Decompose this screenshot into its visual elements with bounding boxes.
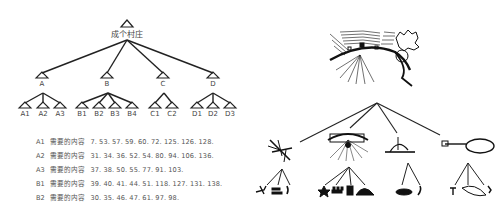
leaf-label: D3 bbox=[225, 110, 235, 118]
leaf-label: A2 bbox=[38, 110, 47, 118]
node-label-c: C bbox=[161, 80, 166, 88]
node-label-d: D bbox=[210, 80, 215, 88]
node-label-a: A bbox=[40, 80, 45, 88]
row-id: B1 bbox=[36, 180, 45, 188]
row-id: A1 bbox=[36, 138, 45, 146]
settlement-sketch bbox=[328, 134, 368, 161]
bottom-glyphs-1 bbox=[256, 186, 288, 194]
content-row: A2需要的内容31. 34. 36. 52. 54. 80. 94. 106. … bbox=[36, 150, 219, 160]
leaf-label: A3 bbox=[55, 110, 64, 118]
root-node-label: 成个村庄 bbox=[111, 28, 143, 39]
leaf-label: B2 bbox=[94, 110, 103, 118]
leaf-label: D2 bbox=[208, 110, 218, 118]
leaf-label: B1 bbox=[77, 110, 86, 118]
row-values: 7. 53. 57. 59. 60. 72. 125. 126. 128. bbox=[90, 138, 213, 146]
row-label: 需要的内容 bbox=[50, 152, 86, 160]
bottom-glyphs-2 bbox=[318, 186, 374, 197]
leaf-label: B3 bbox=[110, 110, 119, 118]
well-sketch bbox=[385, 137, 415, 152]
leaf-label: C2 bbox=[167, 110, 176, 118]
row-label: 需要的内容 bbox=[50, 166, 86, 174]
village-landscape-sketch bbox=[330, 30, 419, 86]
node-label-b: B bbox=[105, 80, 110, 88]
content-row: B1需要的内容39. 40. 41. 44. 51. 118. 127. 131… bbox=[36, 178, 227, 188]
leaf-label: B4 bbox=[127, 110, 136, 118]
content-row: A1需要的内容7. 53. 57. 59. 60. 72. 125. 126. … bbox=[36, 136, 219, 146]
hierarchy-lines bbox=[0, 0, 502, 208]
bottom-glyphs-4 bbox=[450, 186, 491, 196]
tree-sketch bbox=[268, 140, 292, 162]
pond-sketch bbox=[442, 139, 494, 153]
row-id: A2 bbox=[36, 152, 45, 160]
row-values: 30. 35. 46. 47. 61. 97. 98. bbox=[90, 194, 179, 202]
row-values: 31. 34. 36. 52. 54. 80. 94. 106. 136. bbox=[90, 152, 213, 160]
content-row: B2需要的内容30. 35. 46. 47. 61. 97. 98. bbox=[36, 192, 184, 202]
row-label: 需要的内容 bbox=[50, 180, 86, 188]
content-row: A3需要的内容37. 38. 50. 55. 77. 91. 103. bbox=[36, 164, 188, 174]
row-values: 39. 40. 41. 44. 51. 118. 127. 131. 138. bbox=[90, 180, 222, 188]
row-values: 37. 38. 50. 55. 77. 91. 103. bbox=[90, 166, 183, 174]
row-label: 需要的内容 bbox=[50, 138, 86, 146]
row-id: B2 bbox=[36, 194, 45, 202]
bottom-glyphs-3 bbox=[396, 186, 421, 195]
row-label: 需要的内容 bbox=[50, 194, 86, 202]
leaf-label: C1 bbox=[150, 110, 159, 118]
row-id: A3 bbox=[36, 166, 45, 174]
leaf-label: D1 bbox=[192, 110, 202, 118]
leaf-label: A1 bbox=[20, 110, 29, 118]
